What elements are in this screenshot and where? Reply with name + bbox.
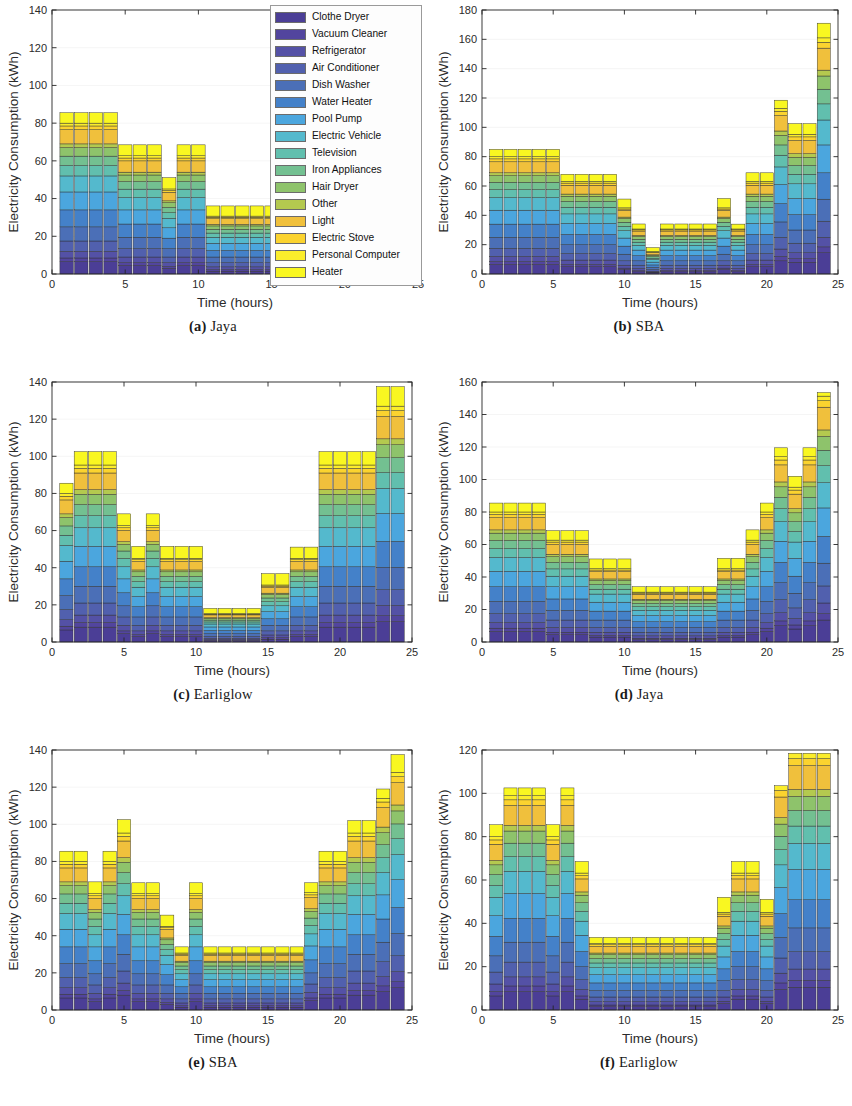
- bar-segment: [218, 966, 231, 970]
- y-axis-label: Electricity Consumption (kWh): [436, 790, 451, 971]
- bar-segment: [632, 250, 645, 256]
- bar-segment: [89, 623, 102, 628]
- bar-segment: [117, 579, 130, 593]
- bar-segment: [675, 224, 688, 229]
- bar-stack: [247, 608, 260, 642]
- bar-segment: [247, 947, 260, 953]
- bar-segment: [718, 969, 731, 981]
- bar-segment: [575, 610, 588, 620]
- bar-segment: [618, 983, 631, 991]
- bar-segment: [561, 918, 574, 942]
- bar-segment: [518, 962, 531, 977]
- bar-segment: [490, 248, 503, 256]
- bar-segment: [362, 858, 375, 863]
- bar-segment: [161, 635, 174, 637]
- bar-segment: [504, 512, 517, 514]
- bar-segment: [74, 623, 87, 628]
- bar-segment: [333, 567, 346, 587]
- bar-segment: [675, 636, 688, 638]
- bar-segment: [362, 991, 375, 996]
- bar-segment: [532, 514, 545, 517]
- bar-segment: [760, 173, 773, 182]
- bar-segment: [261, 956, 274, 962]
- bar-segment: [348, 935, 361, 955]
- x-tick-label: 25: [406, 646, 418, 658]
- bar-segment: [60, 130, 73, 144]
- bar-segment: [189, 947, 202, 961]
- bar-segment: [74, 473, 87, 490]
- bar-segment: [362, 884, 375, 896]
- bar-segment: [236, 250, 249, 257]
- bar-segment: [532, 182, 545, 189]
- bar-segment: [348, 586, 361, 603]
- bar-segment: [233, 1003, 246, 1006]
- bar-segment: [89, 993, 102, 999]
- bar-segment: [362, 615, 375, 622]
- y-tick-label: 180: [459, 4, 477, 16]
- bar-segment: [547, 992, 560, 996]
- bar-segment: [604, 1005, 617, 1007]
- bar-segment: [117, 593, 130, 606]
- bar-segment: [518, 871, 531, 893]
- panel-c: 0204060801001201400510152025Time (hours)…: [0, 368, 426, 736]
- bar-segment: [675, 242, 688, 245]
- bar-stack: [618, 937, 631, 1010]
- bar-segment: [305, 946, 318, 960]
- bar-segment: [192, 145, 205, 156]
- bar-segment: [746, 562, 759, 569]
- bar-segment: [532, 173, 545, 176]
- bar-segment: [218, 622, 231, 624]
- bar-segment: [703, 594, 716, 599]
- bar-segment: [661, 627, 674, 632]
- bar-segment: [146, 542, 159, 545]
- legend-swatch-icon: [275, 80, 306, 91]
- bar-segment: [261, 602, 274, 606]
- legend-swatch-icon: [275, 182, 306, 193]
- bar-segment: [204, 624, 217, 627]
- bar-segment: [746, 935, 759, 951]
- bar-segment: [646, 636, 659, 638]
- bar-segment: [391, 406, 404, 410]
- x-axis-label: Time (hours): [197, 295, 273, 310]
- bar-segment: [718, 946, 731, 957]
- bar-segment: [89, 192, 102, 210]
- bar-segment: [575, 876, 588, 879]
- bar-segment: [333, 886, 346, 894]
- bar-segment: [206, 206, 219, 216]
- bar-segment: [661, 239, 674, 242]
- bar-segment: [362, 567, 375, 587]
- bar-segment: [774, 457, 787, 460]
- bar-stack: [532, 149, 545, 274]
- bar-segment: [618, 254, 631, 261]
- bar-segment: [305, 912, 318, 919]
- bar-segment: [718, 265, 731, 268]
- bar-segment: [675, 953, 688, 955]
- bar-segment: [490, 530, 503, 533]
- bar-segment: [104, 262, 117, 274]
- bar-segment: [589, 602, 602, 611]
- bar-segment: [192, 210, 205, 224]
- bar-segment: [732, 579, 745, 581]
- bar-segment: [817, 120, 830, 145]
- bar-segment: [276, 956, 289, 962]
- bar-segment: [60, 251, 73, 258]
- bar-stack: [774, 786, 787, 1010]
- bar-segment: [261, 598, 274, 602]
- bar-segment: [161, 944, 174, 949]
- bar-segment: [618, 210, 631, 217]
- bar-segment: [189, 570, 202, 572]
- bar-stack: [132, 546, 145, 642]
- bar-segment: [547, 632, 560, 634]
- bar-segment: [236, 224, 249, 226]
- bar-segment: [547, 173, 560, 176]
- bar-segment: [618, 937, 631, 943]
- bar-segment: [204, 993, 217, 999]
- bar-segment: [646, 616, 659, 622]
- bar-segment: [362, 465, 375, 468]
- bar-segment: [391, 590, 404, 606]
- bar-segment: [104, 144, 117, 148]
- bar-segment: [161, 928, 174, 930]
- chart-svg-b: 0204060801001201401601800510152025Time (…: [426, 0, 852, 320]
- bar-segment: [204, 956, 217, 962]
- bar-segment: [161, 915, 174, 926]
